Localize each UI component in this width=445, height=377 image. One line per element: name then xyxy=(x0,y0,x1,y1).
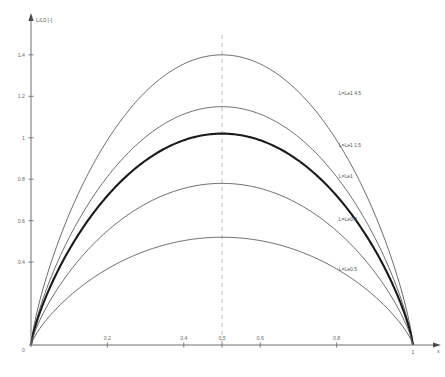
y-tick-label-5: 1.4 xyxy=(18,52,25,58)
y-tick-label-4: 1.2 xyxy=(18,93,25,99)
x-tick-label-4: 0.8 xyxy=(333,335,340,341)
curve-2-label: L=Le1 1.5 xyxy=(339,142,362,148)
y-axis-arrow-icon xyxy=(28,13,33,21)
axis-layer xyxy=(28,13,441,348)
x-tick-label-2: 0.5 xyxy=(218,335,225,341)
x-tick-label-3: 0.6 xyxy=(257,335,264,341)
curve-3-label: L=Le1 xyxy=(339,173,353,179)
x-axis-end-label: 1 xyxy=(412,349,415,355)
curve-5-label: L=Le0.5 xyxy=(339,266,357,272)
chart-plot-area: 0.20.40.50.60.810.40.60.811.21.40 L=Le1 … xyxy=(0,0,445,377)
x-axis-title: x xyxy=(437,348,440,354)
y-tick-label-1: 0.6 xyxy=(18,218,25,224)
x-axis-arrow-icon xyxy=(433,342,441,347)
y-axis-title: L/L0 [-] xyxy=(36,17,53,23)
label-layer: L=Le1 4.5L=Le1 1.5L=Le1L=Le0.8L=Le0.5xL/… xyxy=(36,17,440,354)
curve-4-label: L=Le0.8 xyxy=(339,216,357,222)
origin-label: 0 xyxy=(22,347,25,353)
curve-1-label: L=Le1 4.5 xyxy=(339,90,362,96)
chart-screen: 0.20.40.50.60.810.40.60.811.21.40 L=Le1 … xyxy=(0,0,445,377)
x-tick-label-1: 0.4 xyxy=(180,335,187,341)
y-tick-label-3: 1 xyxy=(22,135,25,141)
x-tick-label-0: 0.2 xyxy=(104,335,111,341)
curve-4 xyxy=(31,183,413,345)
y-tick-label-2: 0.8 xyxy=(18,176,25,182)
y-tick-label-0: 0.4 xyxy=(18,259,25,265)
